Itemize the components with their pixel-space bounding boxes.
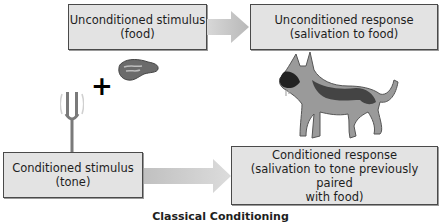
- dog-icon: [276, 50, 400, 142]
- cr-detail-1: (salivation to tone previously paired: [232, 162, 437, 190]
- conditioned-response-box: Conditioned response (salivation to tone…: [231, 146, 438, 205]
- ur-detail: (salivation to food): [290, 27, 399, 41]
- unconditioned-stimulus-box: Unconditioned stimulus (food): [68, 4, 207, 50]
- plus-sign: +: [91, 76, 113, 96]
- cr-label: Conditioned response: [272, 148, 397, 162]
- cr-detail-2: with food): [306, 190, 364, 204]
- arrow-right-icon: [143, 159, 231, 193]
- arrow-right-icon: [207, 11, 249, 43]
- tuning-fork-icon: [60, 90, 84, 152]
- figure-caption: Classical Conditioning: [0, 210, 441, 223]
- ur-label: Unconditioned response: [274, 13, 413, 27]
- conditioned-stimulus-box: Conditioned stimulus (tone): [3, 152, 143, 198]
- unconditioned-response-box: Unconditioned response (salivation to fo…: [250, 4, 438, 50]
- us-label: Unconditioned stimulus: [70, 13, 206, 27]
- meat-icon: [116, 57, 160, 83]
- cs-label: Conditioned stimulus: [12, 161, 134, 175]
- cs-detail: (tone): [56, 175, 91, 189]
- us-detail: (food): [120, 27, 154, 41]
